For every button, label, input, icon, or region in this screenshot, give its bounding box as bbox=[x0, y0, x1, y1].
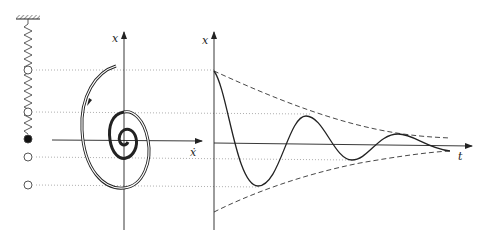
damped-oscillation-curve bbox=[214, 71, 450, 186]
phase-spiral bbox=[82, 66, 149, 188]
phase-axes bbox=[52, 32, 202, 230]
time-t-label: t bbox=[458, 150, 463, 163]
mass-filled bbox=[24, 135, 32, 143]
ceiling-support bbox=[16, 15, 40, 19]
damped-oscillator-diagram: x ẋ x t bbox=[0, 0, 484, 242]
time-x-label: x bbox=[202, 34, 209, 47]
mass-open bbox=[24, 66, 32, 74]
mass-open bbox=[24, 108, 32, 116]
spiral-direction-arrow bbox=[87, 98, 92, 106]
mass-open bbox=[24, 181, 32, 189]
phase-x-label: x bbox=[112, 32, 119, 45]
mass-open bbox=[24, 153, 32, 161]
spring bbox=[24, 19, 32, 134]
phase-xdot-label: ẋ bbox=[190, 146, 197, 159]
time-axes bbox=[214, 32, 472, 230]
